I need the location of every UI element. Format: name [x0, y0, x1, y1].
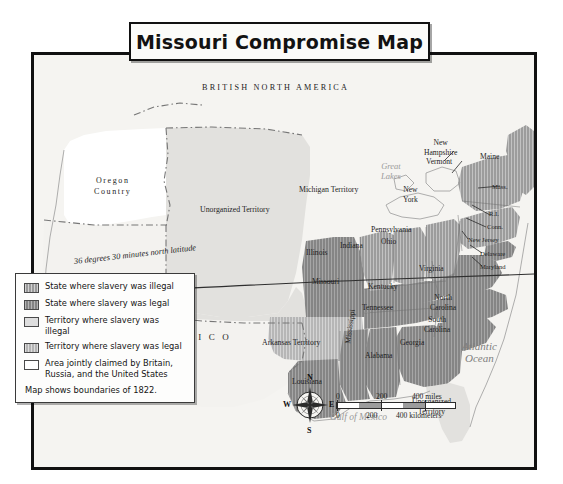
scale-tick-end	[425, 400, 426, 411]
legend-item-state-illegal: State where slavery was illegal	[24, 281, 186, 293]
compass-rose: N S E W	[282, 373, 338, 435]
alabama-area	[364, 327, 400, 399]
legend-label-state-illegal: State where slavery was illegal	[45, 281, 174, 292]
scale-tick-0	[337, 400, 338, 411]
compass-east-label: E	[329, 400, 334, 409]
legend-swatch-territory-legal	[24, 343, 39, 353]
legend-label-state-legal: State where slavery was legal	[45, 298, 169, 309]
indiana-area	[394, 227, 426, 285]
legend-item-joint-claim: Area jointly claimed by Britain, Russia,…	[24, 358, 186, 379]
scale-tick-mid	[381, 400, 382, 411]
compass-north-label: N	[307, 373, 313, 382]
legend-item-state-legal: State where slavery was legal	[24, 298, 186, 310]
map-legend: State where slavery was illegal State wh…	[15, 273, 195, 403]
legend-item-territory-illegal: Territory where slavery was illegal	[24, 315, 186, 336]
legend-label-territory-illegal: Territory where slavery was illegal	[45, 315, 186, 336]
oregon-country-area	[64, 128, 166, 227]
compass-west-label: W	[283, 400, 291, 409]
legend-swatch-joint-claim	[24, 360, 39, 370]
legend-label-joint-claim: Area jointly claimed by Britain, Russia,…	[45, 358, 186, 379]
map-frame: BRITISH NORTH AMERICA M E X I C O Oregon…	[31, 52, 537, 470]
legend-label-territory-legal: Territory where slavery was legal	[45, 341, 182, 352]
compass-south-label: S	[307, 426, 311, 435]
page-title: Missouri Compromise Map	[136, 31, 423, 53]
map-scale-bar: 0 200 400 miles 0 200 400 kilometers	[336, 392, 456, 421]
missouri-area	[302, 237, 364, 317]
legend-item-territory-legal: Territory where slavery was legal	[24, 341, 186, 353]
scale-km-end: 400 kilometers	[396, 411, 441, 420]
scale-segment-2	[403, 403, 425, 408]
scale-km-zero: 0	[336, 411, 340, 420]
scale-miles-end: 400 miles	[412, 392, 442, 401]
legend-swatch-territory-illegal	[24, 317, 39, 327]
scale-miles-labels: 0 200 400 miles	[336, 392, 456, 402]
map-title-plate: Missouri Compromise Map	[129, 22, 430, 61]
legend-note: Map shows boundaries of 1822.	[24, 385, 186, 395]
legend-swatch-state-illegal	[24, 283, 39, 293]
scale-kilometers-labels: 0 200 400 kilometers	[336, 411, 456, 421]
legend-swatch-state-legal	[24, 300, 39, 310]
scale-bar-graphic	[336, 402, 456, 409]
scale-segment-1	[359, 403, 381, 408]
map-page: BRITISH NORTH AMERICA M E X I C O Oregon…	[0, 0, 563, 484]
mississippi-area	[340, 329, 370, 401]
scale-km-mid: 200	[366, 411, 377, 420]
